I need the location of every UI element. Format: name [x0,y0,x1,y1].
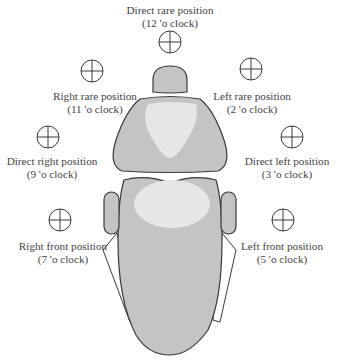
right-armrest [104,192,119,234]
left-armrest [221,192,236,234]
crosshair-icon-direct-right [37,126,59,148]
crosshair-icon-left-rare [240,58,262,80]
position-clock: (11 'o clock) [53,103,137,116]
operator-positions-diagram: Direct rare position (12 'o clock) Right… [0,0,338,360]
position-name: Left rare position [213,90,291,103]
position-name: Left front position [241,240,323,253]
crosshair-icon-direct-left [281,126,303,148]
label-direct-right: Direct right position (9 'o clock) [7,155,98,181]
label-left-front: Left front position (5 'o clock) [241,240,323,266]
position-name: Direct left position [245,155,330,168]
position-name: Direct rare position [127,4,214,17]
position-clock: (3 'o clock) [245,168,330,181]
headrest [153,66,187,93]
position-clock: (7 'o clock) [19,253,107,266]
crosshair-icon-direct-rare [159,31,181,53]
position-clock: (5 'o clock) [241,253,323,266]
label-left-rare: Left rare position (2 'o clock) [213,90,291,116]
position-clock: (9 'o clock) [7,168,98,181]
label-direct-rare: Direct rare position (12 'o clock) [127,4,214,30]
position-clock: (12 'o clock) [127,17,214,30]
crosshair-icon-right-rare [81,60,103,82]
position-clock: (2 'o clock) [213,103,291,116]
crosshair-icon-left-front [272,209,294,231]
label-right-front: Right front position (7 'o clock) [19,240,107,266]
position-name: Right rare position [53,90,137,103]
position-name: Direct right position [7,155,98,168]
seat-highlight [134,180,210,228]
position-name: Right front position [19,240,107,253]
label-right-rare: Right rare position (11 'o clock) [53,90,137,116]
crosshair-icon-right-front [49,209,71,231]
label-direct-left: Direct left position (3 'o clock) [245,155,330,181]
